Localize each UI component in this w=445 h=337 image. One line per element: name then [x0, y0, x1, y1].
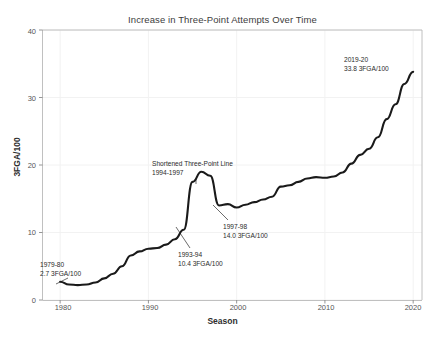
annotation-line-1: Shortened Three-Point Line: [152, 160, 233, 167]
annotation-line-1: 1979-80: [40, 261, 64, 268]
annotation-season-1997-98: 1997-98 14.0 3FGA/100: [223, 222, 268, 240]
annotation-line-1: 1997-98: [223, 223, 247, 230]
annotation-season-1993-94: 1993-94 10.4 3FGA/100: [178, 250, 223, 268]
annotation-shortened-line: Shortened Three-Point Line 1994-1997: [152, 159, 233, 177]
annotation-leader-lines: [56, 178, 228, 284]
annotation-line-2: 10.4 3FGA/100: [178, 259, 223, 268]
chart-figure: Increase in Three-Point Attempts Over Ti…: [0, 0, 445, 337]
annotation-line-2: 1994-1997: [152, 168, 233, 177]
annotation-first-season: 1979-80 2.7 3FGA/100: [40, 260, 81, 278]
annotation-line-1: 1993-94: [178, 251, 202, 258]
annotation-line-1: 2019-20: [344, 56, 368, 63]
annotation-line-2: 14.0 3FGA/100: [223, 231, 268, 240]
annotation-line-2: 2.7 3FGA/100: [40, 269, 81, 278]
annotation-season-2019-20: 2019-20 33.8 3FGA/100: [344, 55, 389, 73]
annotation-leader-line: [213, 205, 228, 220]
annotation-line-2: 33.8 3FGA/100: [344, 64, 389, 73]
